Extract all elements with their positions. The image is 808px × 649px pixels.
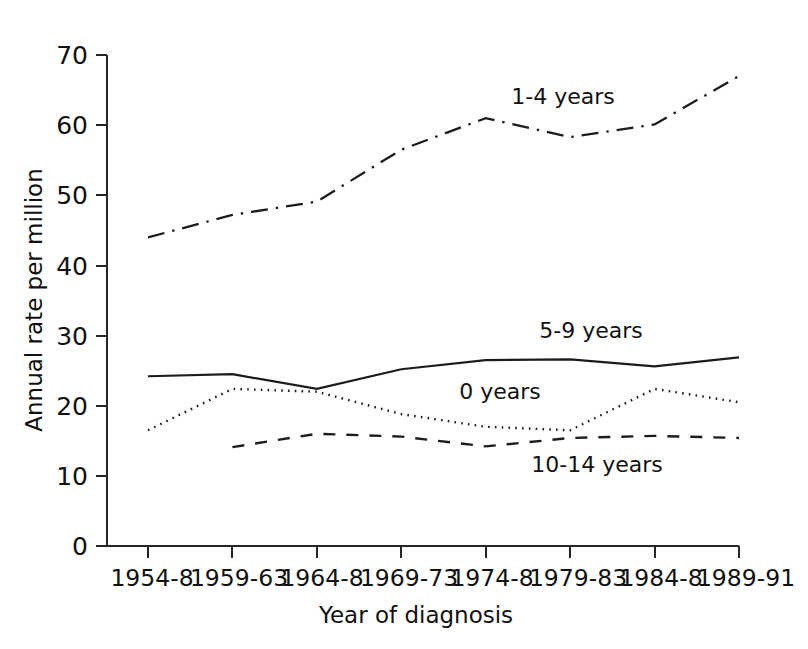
y-tick-label: 60 (56, 111, 88, 140)
x-tick-label: 1974-8 (450, 564, 533, 592)
series-label-5-9-years: 5-9 years (539, 318, 642, 343)
y-tick-label: 70 (56, 41, 88, 70)
y-tick-label: 30 (56, 322, 88, 351)
y-axis-tick-labels: 70 60 50 40 30 20 10 0 (56, 41, 88, 561)
y-tick-label: 50 (56, 181, 88, 210)
y-tick-label: 10 (56, 462, 88, 491)
chart-figure: 70 60 50 40 30 20 10 0 1954-8 1959-63 19… (0, 0, 808, 649)
series-label-10-14-years: 10-14 years (531, 452, 662, 477)
x-tick-label: 1954-8 (110, 564, 193, 592)
x-tick-label: 1964-8 (280, 564, 363, 592)
series-label-1-4-years: 1-4 years (511, 84, 614, 109)
x-axis-tick-labels: 1954-8 1959-63 1964-8 1969-73 1974-8 197… (110, 564, 795, 592)
series-line-0-years (148, 389, 739, 430)
series-line-10-14-years (232, 434, 739, 447)
series-label-0-years: 0 years (459, 379, 541, 404)
series-group (148, 76, 739, 447)
line-chart-canvas: 70 60 50 40 30 20 10 0 1954-8 1959-63 19… (0, 0, 808, 649)
y-axis-title: Annual rate per million (21, 168, 47, 431)
x-axis-ticks (148, 546, 739, 558)
series-annotations: 1-4 years 5-9 years 0 years 10-14 years (459, 84, 663, 477)
series-line-5-9-years (148, 357, 739, 389)
x-tick-label: 1989-91 (697, 564, 795, 592)
x-tick-label: 1969-73 (360, 564, 458, 592)
y-tick-label: 40 (56, 252, 88, 281)
x-tick-label: 1959-63 (190, 564, 288, 592)
series-line-1-4-years (148, 76, 739, 237)
x-tick-label: 1979-83 (529, 564, 627, 592)
y-tick-label: 0 (72, 532, 88, 561)
y-tick-label: 20 (56, 392, 88, 421)
y-axis-ticks (96, 55, 107, 546)
x-axis-title: Year of diagnosis (318, 602, 513, 628)
x-tick-label: 1984-8 (619, 564, 702, 592)
